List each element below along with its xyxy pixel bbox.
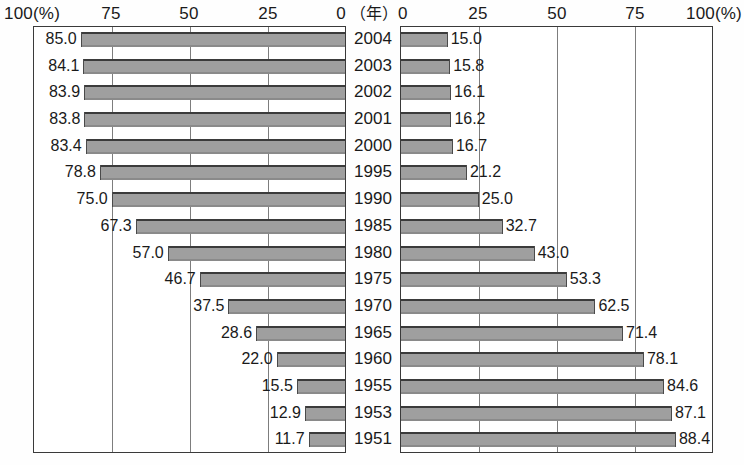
right-bar [401, 219, 503, 234]
right-bar-value: 62.5 [595, 295, 629, 317]
table-row: 21.2 [401, 160, 712, 187]
right-bar [401, 326, 623, 341]
year-axis-column: 2004200320022001200019951990198519801975… [346, 26, 400, 453]
left-bar-value: 85.0 [46, 28, 81, 50]
left-axis-tick-25: 25 [258, 4, 277, 24]
table-row: 25.0 [401, 187, 712, 214]
right-bar-value: 21.2 [467, 161, 501, 183]
table-row: 88.4 [401, 427, 712, 454]
left-bar [228, 299, 345, 314]
right-bar [401, 32, 448, 47]
left-bar [84, 112, 345, 127]
left-bar-value: 28.6 [221, 322, 256, 344]
table-row: 16.7 [401, 134, 712, 161]
table-row: 12.9 [34, 401, 345, 428]
table-row: 22.0 [34, 347, 345, 374]
year-label: 1980 [346, 240, 400, 267]
right-bar [401, 192, 479, 207]
year-label: 2003 [346, 53, 400, 80]
table-row: 71.4 [401, 321, 712, 348]
left-bar [81, 32, 345, 47]
table-row: 28.6 [34, 321, 345, 348]
year-label: 2000 [346, 133, 400, 160]
right-axis-tick-100: 100(%) [686, 4, 742, 24]
right-bar-value: 16.7 [453, 135, 487, 157]
table-row: 15.8 [401, 54, 712, 81]
left-bar-value: 12.9 [270, 402, 305, 424]
table-row: 78.8 [34, 160, 345, 187]
left-bar-value: 83.8 [49, 108, 84, 130]
left-bar [200, 272, 345, 287]
year-label: 1960 [346, 346, 400, 373]
left-bar-value: 46.7 [165, 268, 200, 290]
right-bar [401, 352, 644, 367]
left-bar-value: 83.9 [49, 81, 84, 103]
left-bar-value: 11.7 [275, 428, 309, 450]
right-bar-value: 15.0 [448, 28, 482, 50]
table-row: 15.0 [401, 27, 712, 54]
right-bar [401, 272, 567, 287]
left-bar-value: 78.8 [65, 161, 100, 183]
right-bar-value: 84.6 [664, 375, 698, 397]
right-bar [401, 165, 467, 180]
left-bar [277, 352, 345, 367]
left-chart-panel: 85.084.183.983.883.478.875.067.357.046.7… [33, 26, 346, 453]
year-label: 1985 [346, 213, 400, 240]
right-bar [401, 85, 451, 100]
right-axis-tick-50: 50 [547, 4, 566, 24]
table-row: 53.3 [401, 267, 712, 294]
left-bar [297, 379, 345, 394]
left-bar [309, 432, 345, 447]
table-row: 57.0 [34, 241, 345, 268]
right-axis-tick-25: 25 [468, 4, 487, 24]
table-row: 87.1 [401, 401, 712, 428]
table-row: 16.1 [401, 80, 712, 107]
left-bar [86, 139, 345, 154]
right-bar [401, 406, 672, 421]
table-row: 37.5 [34, 294, 345, 321]
year-label: 1953 [346, 400, 400, 427]
right-bar [401, 59, 450, 74]
left-bar-value: 75.0 [77, 188, 112, 210]
right-chart-panel: 15.015.816.116.216.721.225.032.743.053.3… [400, 26, 713, 453]
year-label: 2004 [346, 26, 400, 53]
left-bar-value: 22.0 [241, 348, 276, 370]
table-row: 15.5 [34, 374, 345, 401]
year-label: 2001 [346, 106, 400, 133]
right-bar-value: 78.1 [644, 348, 678, 370]
table-row: 84.1 [34, 54, 345, 81]
right-bar [401, 112, 451, 127]
right-bar-value: 87.1 [672, 402, 706, 424]
table-row: 84.6 [401, 374, 712, 401]
left-bar [84, 85, 345, 100]
table-row: 43.0 [401, 241, 712, 268]
table-row: 85.0 [34, 27, 345, 54]
table-row: 83.4 [34, 134, 345, 161]
table-row: 32.7 [401, 214, 712, 241]
right-bar-value: 53.3 [567, 268, 601, 290]
table-row: 11.7 [34, 427, 345, 454]
year-label: 1990 [346, 186, 400, 213]
year-axis-header: （年） [350, 4, 399, 24]
year-label: 1970 [346, 293, 400, 320]
right-bar-value: 88.4 [676, 428, 710, 450]
right-bar-value: 43.0 [535, 242, 569, 264]
left-bar [256, 326, 345, 341]
table-row: 67.3 [34, 214, 345, 241]
year-label: 1955 [346, 373, 400, 400]
right-bar-value: 15.8 [450, 55, 484, 77]
left-axis-tick-100: 100(%) [4, 4, 60, 24]
right-bar [401, 299, 595, 314]
left-bar-value: 57.0 [133, 242, 168, 264]
right-bar [401, 432, 676, 447]
left-bar [100, 165, 345, 180]
right-bar [401, 246, 535, 261]
left-bar [168, 246, 345, 261]
table-row: 75.0 [34, 187, 345, 214]
table-row: 83.9 [34, 80, 345, 107]
left-axis-tick-75: 75 [101, 4, 120, 24]
table-row: 78.1 [401, 347, 712, 374]
left-bar-value: 83.4 [50, 135, 85, 157]
left-bar-value: 84.1 [48, 55, 83, 77]
left-bar-value: 15.5 [262, 375, 297, 397]
